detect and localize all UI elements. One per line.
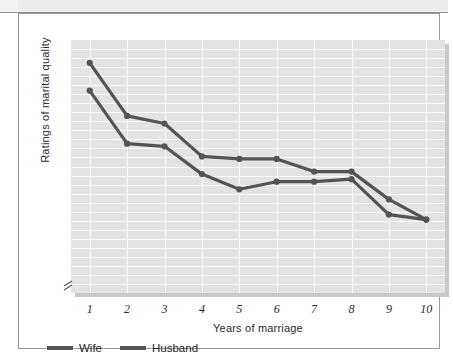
legend-label: Husband	[152, 342, 198, 354]
gridline-vertical	[314, 40, 315, 293]
y-axis-title: Ratings of marital quality	[39, 10, 51, 190]
x-tick-label: 5	[224, 302, 254, 317]
chart-legend: WifeHusband	[47, 342, 198, 354]
gridline-vertical	[426, 40, 427, 293]
figure-frame: 12345678910 Years of marriage Ratings of…	[18, 13, 440, 349]
x-tick-label: 4	[187, 302, 217, 317]
x-tick-label: 1	[75, 302, 105, 317]
gridline-vertical	[239, 40, 240, 293]
legend-item-husband[interactable]: Husband	[120, 342, 198, 354]
line-swatch-icon	[47, 346, 73, 350]
legend-label: Wife	[79, 342, 102, 354]
x-tick-label: 7	[299, 302, 329, 317]
top-strip	[0, 0, 448, 13]
x-axis-title: Years of marriage	[71, 322, 445, 334]
axis-break-icon	[63, 279, 77, 293]
gridline-vertical	[90, 40, 91, 293]
gridline-vertical	[277, 40, 278, 293]
gridline-vertical	[165, 40, 166, 293]
gridline-vertical	[127, 40, 128, 293]
x-tick-label: 6	[262, 302, 292, 317]
x-tick-label: 2	[112, 302, 142, 317]
line-swatch-icon	[120, 346, 146, 350]
gridline-vertical	[202, 40, 203, 293]
top-strip-inner	[18, 0, 448, 11]
x-tick-label: 8	[337, 302, 367, 317]
gridline-vertical	[352, 40, 353, 293]
x-tick-label: 3	[150, 302, 180, 317]
gridline-vertical	[389, 40, 390, 293]
plot-area	[71, 40, 445, 293]
x-tick-label: 10	[411, 302, 441, 317]
legend-item-wife[interactable]: Wife	[47, 342, 102, 354]
x-tick-label: 9	[374, 302, 404, 317]
